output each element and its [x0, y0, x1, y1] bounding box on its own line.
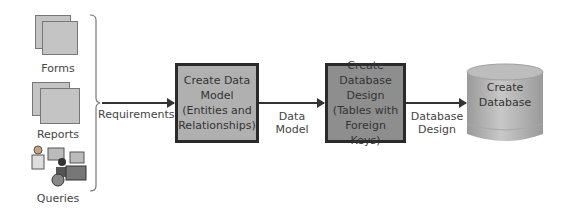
create-data-model-step: Create Data Model (Entities and Relation… — [175, 63, 259, 143]
database-design-label: Database Design — [406, 110, 468, 136]
edge2-line: Data — [262, 110, 322, 123]
reports-label: Reports — [25, 128, 91, 141]
step2-line: Design — [330, 88, 401, 103]
create-database-design-step: Create Database Design (Tables with Fore… — [325, 63, 406, 143]
queries-users-icon — [30, 142, 90, 192]
edge3-line: Database — [406, 110, 468, 123]
forms-label: Forms — [25, 62, 91, 75]
step1-line: Create Data — [178, 73, 256, 88]
create-database-step: Create Database — [467, 80, 543, 110]
step2-line: Database — [330, 73, 401, 88]
step1-line: Model — [178, 88, 256, 103]
step3-line: Create — [467, 80, 543, 95]
step3-line: Database — [467, 95, 543, 110]
requirements-label: Requirements — [98, 108, 174, 121]
step1-line: (Entities and — [178, 103, 256, 118]
data-model-label: Data Model — [262, 110, 322, 136]
grouping-brace — [88, 14, 102, 192]
step2-line: Foreign Keys) — [330, 118, 401, 148]
edge3-line: Design — [406, 123, 468, 136]
database-design-arrow — [406, 102, 466, 104]
step1-line: Relationships) — [178, 118, 256, 133]
requirements-arrow — [102, 102, 174, 104]
queries-label: Queries — [25, 192, 91, 205]
step2-line: (Tables with — [330, 103, 401, 118]
data-model-arrow — [259, 102, 324, 104]
step2-line: Create — [330, 58, 401, 73]
edge2-line: Model — [262, 123, 322, 136]
